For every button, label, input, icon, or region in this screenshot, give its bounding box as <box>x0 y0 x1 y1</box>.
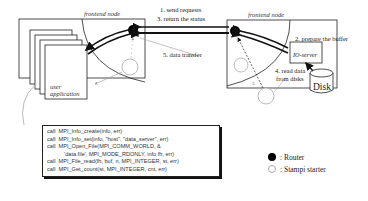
right-stampi-starter-icon-2 <box>258 88 274 104</box>
step3-label: 3. return the status <box>157 15 205 22</box>
step2-label: 2. prepare the buffer <box>295 35 349 42</box>
right-node-label: frontend node <box>248 11 284 18</box>
app-to-code-connector <box>23 84 37 125</box>
step4-label-line2: from disks <box>276 75 304 82</box>
step4-label-line1: 4. read data <box>275 67 305 74</box>
legend-router-label: : Router <box>280 153 304 162</box>
legend-stampi: : Stampi starter <box>268 164 326 174</box>
code-line: call MPI_Info_create(info, err) <box>47 128 215 136</box>
router-to-app-arrow-1 <box>86 30 128 50</box>
router-icon <box>268 153 276 161</box>
io-server-label: IO-server <box>292 51 318 58</box>
right-stampi-starter-icon-1 <box>234 58 248 72</box>
right-router-icon <box>230 26 240 36</box>
code-line: call MPI_File_read(fh, buf, n, MPI_INTEG… <box>47 158 215 166</box>
code-line: call MPI_Get_count(st, MPI_INTEGER, cnt,… <box>47 166 215 174</box>
step-small-label: 3. <box>252 81 255 86</box>
left-node-label: frontend node <box>84 10 120 17</box>
disk-to-ioserver-arrow <box>306 63 313 71</box>
legend: : Router : Stampi starter <box>268 152 326 176</box>
disk-label: Disk <box>313 82 331 92</box>
code-line: call MPI_Open_File(MPI_COMM_WORLD, & <box>47 143 215 151</box>
router-to-ioserver-arrow-1 <box>240 31 288 48</box>
step1-label: 1. send requests <box>160 6 202 13</box>
code-line: 'data.file', MPI_MODE_RDONLY, info fh, e… <box>47 151 215 159</box>
stampi-starter-icon <box>268 165 276 173</box>
step5-label: 5. data transfer <box>163 51 203 58</box>
user-label: user <box>50 83 62 90</box>
application-label: application <box>50 90 80 97</box>
legend-stampi-label: : Stampi starter <box>280 165 326 174</box>
mpi-code-box: call MPI_Info_create(info, err) call MPI… <box>42 125 220 177</box>
left-stampi-starter-icon <box>122 59 138 75</box>
code-line: call MPI_Info_set(info, "host", "data_se… <box>47 136 215 144</box>
legend-router: : Router <box>268 152 326 162</box>
disk-top <box>310 69 333 77</box>
left-stampi-to-router-dashed <box>131 38 133 58</box>
